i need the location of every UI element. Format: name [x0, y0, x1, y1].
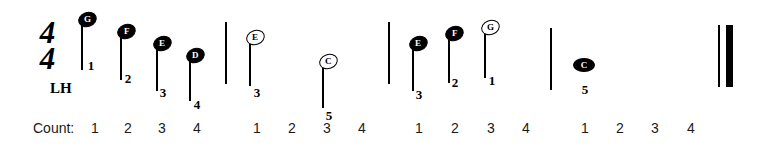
notehead-letter: E: [415, 39, 421, 48]
notehead-letter: C: [325, 57, 332, 66]
finger-number: 2: [448, 75, 462, 91]
count-beat: 1: [250, 120, 264, 136]
hand-label: LH: [50, 80, 72, 97]
notehead-letter: F: [124, 27, 130, 36]
finger-number: 1: [485, 73, 499, 89]
count-beat: 4: [190, 120, 204, 136]
notehead-e: E: [244, 27, 267, 48]
notehead-letter: G: [487, 23, 494, 32]
count-beat: 4: [519, 120, 533, 136]
notehead-letter: F: [452, 29, 458, 38]
count-beat: 4: [355, 120, 369, 136]
count-beat: 2: [613, 120, 627, 136]
notehead-f: F: [443, 23, 466, 44]
finger-number: 1: [84, 58, 98, 74]
count-beat: 4: [684, 120, 698, 136]
count-beat: 3: [484, 120, 498, 136]
notehead-e: E: [407, 33, 430, 54]
notehead-d: D: [184, 45, 207, 66]
count-beat: 2: [448, 120, 462, 136]
finger-number: 5: [578, 82, 592, 98]
time-signature-denominator: 4: [30, 46, 64, 72]
finger-number: 3: [156, 85, 170, 101]
notehead-letter: E: [252, 33, 258, 42]
note-stem: [484, 28, 486, 78]
barline-3: [550, 28, 552, 90]
finger-number: 3: [412, 87, 426, 103]
count-beat: 3: [320, 120, 334, 136]
notehead-letter: D: [192, 51, 199, 60]
finger-number: 2: [121, 71, 135, 87]
count-beat: 3: [648, 120, 662, 136]
barline-1: [225, 22, 227, 84]
end-barline-thin: [718, 25, 720, 87]
notehead-g: G: [479, 17, 502, 38]
barline-2: [388, 22, 390, 84]
notehead-f: F: [115, 21, 138, 42]
count-beat: 2: [121, 120, 135, 136]
end-barline-thick: [726, 25, 733, 87]
count-beat: 2: [285, 120, 299, 136]
music-notation-exercise: 4 4 LH Count: G1F2E3D4E3C5E3F2G1C5 12341…: [0, 0, 768, 147]
finger-number: 3: [250, 85, 264, 101]
count-beat: 3: [155, 120, 169, 136]
time-signature: 4 4: [30, 20, 64, 72]
count-beat: 1: [578, 120, 592, 136]
notehead-c: C: [317, 51, 340, 72]
notehead-g: G: [76, 9, 99, 30]
count-beat: 1: [412, 120, 426, 136]
notehead-c: C: [573, 58, 595, 72]
count-label: Count:: [33, 120, 74, 136]
note-stem: [81, 20, 83, 70]
notehead-letter: G: [84, 15, 91, 24]
notehead-letter: E: [159, 39, 165, 48]
finger-number: 4: [190, 97, 204, 113]
notehead-letter: C: [581, 61, 588, 70]
notehead-e: E: [151, 33, 174, 54]
count-beat: 1: [88, 120, 102, 136]
